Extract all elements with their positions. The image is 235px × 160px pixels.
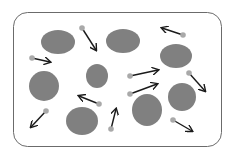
small-particle: [108, 126, 114, 132]
large-particle: [66, 107, 98, 135]
small-particle: [43, 108, 49, 114]
small-particle: [127, 73, 133, 79]
small-particle: [96, 101, 102, 107]
large-particle: [86, 64, 108, 88]
large-particle: [41, 30, 75, 54]
small-particle: [186, 70, 192, 76]
large-particle: [106, 29, 140, 53]
large-particle: [168, 83, 196, 111]
small-particle: [79, 25, 85, 31]
small-particle: [29, 55, 35, 61]
small-particle: [170, 117, 176, 123]
large-particle: [29, 71, 59, 101]
large-particle: [132, 94, 162, 126]
particle-diagram: [0, 0, 235, 160]
large-particle: [160, 44, 192, 68]
small-particle: [180, 32, 186, 38]
small-particle: [127, 91, 133, 97]
